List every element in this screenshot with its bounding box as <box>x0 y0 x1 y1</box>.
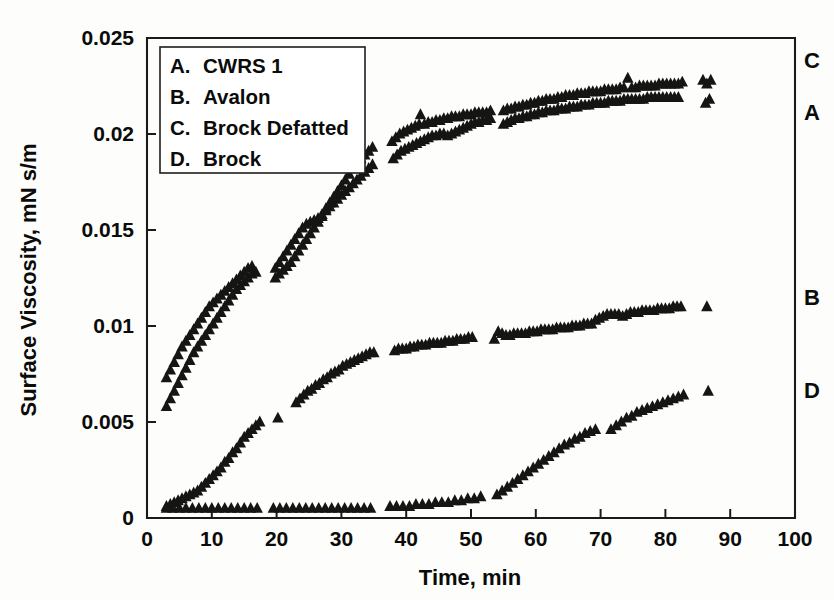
y-tick-label: 0.01 <box>93 314 134 337</box>
surface-viscosity-chart: 0102030405060708090100 00.0050.010.0150.… <box>0 0 834 600</box>
y-tick-label: 0.02 <box>93 122 134 145</box>
series-d <box>161 385 714 513</box>
x-tick-label: 100 <box>777 527 812 550</box>
data-point-marker <box>475 490 487 501</box>
x-tick-label: 80 <box>654 527 677 550</box>
legend-label-b: Avalon <box>203 85 271 108</box>
legend-key-c: C. <box>170 116 191 139</box>
series-end-label-d: D <box>804 378 820 403</box>
data-point-marker <box>622 72 634 83</box>
x-tick-label: 30 <box>330 527 353 550</box>
y-tick-label: 0.005 <box>81 410 134 433</box>
legend-label-c: Brock Defatted <box>203 116 349 139</box>
data-point-marker <box>415 108 427 119</box>
series-end-label-c: C <box>804 48 820 73</box>
x-tick-label: 0 <box>141 527 153 550</box>
y-tick-label: 0.025 <box>81 26 134 49</box>
series-end-label-b: B <box>804 285 820 310</box>
x-axis-ticks: 0102030405060708090100 <box>141 509 812 550</box>
x-tick-label: 10 <box>200 527 223 550</box>
x-tick-label: 50 <box>459 527 482 550</box>
x-axis-title: Time, min <box>419 565 521 590</box>
y-axis-ticks: 00.0050.010.0150.020.025 <box>81 26 156 529</box>
legend-key-b: B. <box>170 85 191 108</box>
data-point-marker <box>701 300 713 311</box>
data-point-marker <box>272 412 284 423</box>
legend: A. CWRS 1 B. Avalon C. Brock Defatted D.… <box>160 47 365 173</box>
y-tick-label: 0.015 <box>81 218 134 241</box>
legend-key-d: D. <box>170 147 191 170</box>
y-tick-label: 0 <box>122 506 134 529</box>
x-tick-label: 60 <box>524 527 547 550</box>
x-tick-label: 90 <box>719 527 742 550</box>
series-end-label-a: A <box>804 100 820 125</box>
series-end-labels: ABCD <box>804 48 820 403</box>
legend-label-d: Brock <box>203 147 262 170</box>
x-tick-label: 40 <box>395 527 418 550</box>
legend-key-a: A. <box>170 54 191 77</box>
y-axis-title: Surface Viscosity, mN s/m <box>16 143 41 416</box>
legend-label-a: CWRS 1 <box>203 54 283 77</box>
data-point-marker <box>702 385 714 396</box>
x-tick-label: 70 <box>589 527 612 550</box>
series-b <box>161 300 713 511</box>
x-tick-label: 20 <box>265 527 288 550</box>
figure-container: 0102030405060708090100 00.0050.010.0150.… <box>0 0 834 600</box>
